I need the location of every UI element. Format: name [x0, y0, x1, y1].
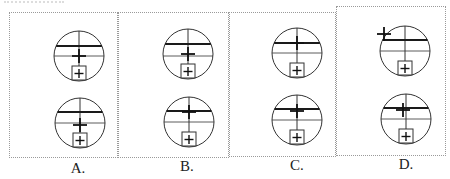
telescope-view — [54, 31, 104, 81]
telescope-view — [164, 97, 214, 147]
option-label-d: D. — [386, 156, 426, 173]
option-label-b: B. — [167, 158, 207, 175]
telescope-view — [272, 95, 322, 145]
telescope-view — [55, 98, 105, 148]
telescope-view — [272, 28, 322, 78]
telescope-view — [163, 29, 213, 79]
telescope-view — [381, 94, 431, 144]
option-label-c: C. — [277, 157, 317, 174]
option-label-a: A. — [58, 160, 98, 177]
telescope-view — [377, 26, 430, 76]
reticle-diagram — [0, 0, 450, 179]
